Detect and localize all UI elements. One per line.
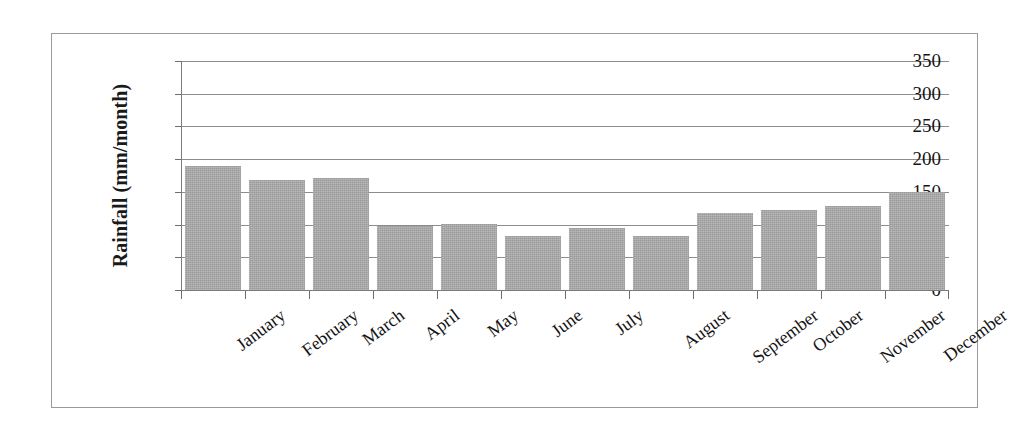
bar (313, 178, 370, 290)
bar (249, 180, 306, 290)
bar (697, 213, 754, 290)
x-tick-label: June (547, 305, 586, 342)
x-tick-label: October (808, 305, 867, 357)
y-tick-label: 300 (913, 84, 942, 103)
chart-frame: Rainfall (mm/month) 05010015020025030035… (51, 33, 978, 408)
y-axis-line (181, 61, 182, 290)
x-tick-mark (501, 291, 502, 299)
figure-canvas: Rainfall (mm/month) 05010015020025030035… (0, 0, 1029, 439)
x-tick-label: April (420, 305, 463, 345)
y-axis-title: Rainfall (mm/month) (109, 56, 132, 296)
x-tick-mark (885, 291, 886, 299)
x-tick-mark (948, 291, 949, 299)
x-tick-mark (437, 291, 438, 299)
plot-area: 050100150200250300350 JanuaryFebruaryMar… (181, 61, 949, 290)
bar (505, 236, 562, 290)
bar (889, 192, 946, 290)
x-tick-label: January (232, 305, 289, 355)
bar (569, 228, 626, 290)
bar (633, 236, 690, 290)
bar (825, 206, 882, 290)
x-tick-mark (181, 291, 182, 299)
x-tick-label: February (298, 305, 363, 361)
x-tick-mark (309, 291, 310, 299)
x-tick-mark (693, 291, 694, 299)
gridline (181, 94, 949, 95)
y-tick-label: 250 (913, 116, 942, 135)
gridline (181, 126, 949, 127)
y-tick-label: 200 (913, 149, 942, 168)
bar (441, 224, 498, 290)
x-tick-label: May (483, 305, 522, 342)
bar (377, 226, 434, 290)
gridline (181, 159, 949, 160)
x-tick-mark (821, 291, 822, 299)
bar (185, 166, 242, 290)
x-tick-mark (629, 291, 630, 299)
x-tick-label: December (940, 305, 1012, 366)
y-tick-label: 350 (913, 51, 942, 70)
x-tick-label: August (679, 305, 733, 353)
x-tick-mark (757, 291, 758, 299)
x-tick-mark (565, 291, 566, 299)
x-tick-label: July (611, 305, 648, 340)
x-tick-mark (373, 291, 374, 299)
gridline (181, 61, 949, 62)
x-tick-label: November (876, 305, 949, 367)
x-tick-label: March (358, 305, 408, 350)
bar (761, 210, 818, 290)
x-tick-mark (245, 291, 246, 299)
